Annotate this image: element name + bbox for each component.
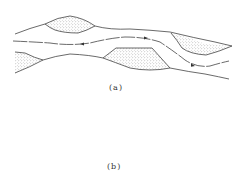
- caption-a: (a): [109, 83, 123, 92]
- flow-arrow: [80, 43, 84, 46]
- sand-bar: [45, 16, 95, 33]
- river-bank: [15, 16, 232, 46]
- caption-b: (b): [107, 162, 121, 171]
- panel-a: [13, 16, 232, 79]
- sand-bar: [103, 48, 170, 70]
